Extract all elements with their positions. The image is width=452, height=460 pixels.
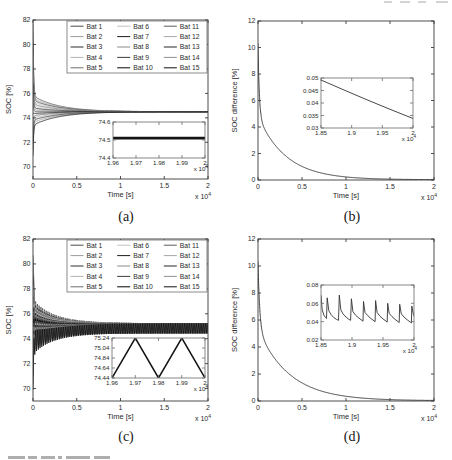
inset-plot: 1.961.971.981.99274.4474.6474.8475.0475.… <box>94 334 208 392</box>
x-tick-label: 1.5 <box>159 404 169 411</box>
y-tick-label: 80 <box>23 41 31 48</box>
y-tick-label: 74.4 <box>98 154 111 161</box>
legend-label: Bat 3 <box>87 43 103 50</box>
legend-label: Bat 7 <box>133 33 149 40</box>
y-axis-label: SOC [%] <box>4 85 13 114</box>
y-tick-label: 6 <box>252 316 256 323</box>
y-tick-label: 70 <box>23 385 31 392</box>
legend-label: Bat 12 <box>180 252 200 259</box>
x-axis-label: Time [s] <box>107 190 133 199</box>
y-tick-label: 2 <box>252 370 256 377</box>
y-axis-label: SOC difference [%] <box>230 288 239 352</box>
x-axis-label: Time [s] <box>333 191 359 200</box>
x-tick-label: 0 <box>256 183 260 190</box>
x-tick-label: 0 <box>256 404 260 411</box>
panel-d: 00.511.52024681012x 104SOC difference [%… <box>226 230 452 460</box>
axis-exponent-multiplier: x 104 <box>421 413 437 422</box>
y-tick-label: 75.04 <box>94 344 110 351</box>
legend: Bat 1Bat 2Bat 3Bat 4Bat 5Bat 6Bat 7Bat 8… <box>67 21 207 73</box>
y-tick-label: 0.08 <box>306 281 319 288</box>
inset-background <box>321 78 413 128</box>
text-smudge <box>28 456 37 459</box>
x-axis-label: Time [s] <box>107 412 133 421</box>
legend-label: Bat 8 <box>133 43 149 50</box>
inset-background <box>112 338 205 378</box>
legend-label: Bat 2 <box>87 33 103 40</box>
x-tick-label: 1.98 <box>152 379 165 386</box>
x-tick-label: 1.95 <box>377 341 390 348</box>
y-tick-label: 74.6 <box>98 118 111 125</box>
legend-label: Bat 2 <box>87 252 103 259</box>
panel-c: 00.511.5270727476788082x 104SOC [%]Time … <box>0 230 226 460</box>
y-tick-label: 0.045 <box>303 87 319 94</box>
y-tick-label: 74.44 <box>94 374 110 381</box>
y-axis-label: SOC difference [%] <box>230 68 239 132</box>
text-smudge <box>41 456 55 459</box>
legend-label: Bat 4 <box>87 273 103 280</box>
x-tick-label: 1 <box>344 404 348 411</box>
chart-d-soc-difference: 00.511.52024681012x 104SOC difference [%… <box>226 230 452 460</box>
axis-exponent-multiplier: x 104 <box>402 134 417 142</box>
series-line-bat-11 <box>33 112 208 123</box>
y-tick-label: 74.84 <box>94 354 110 361</box>
axis-exponent-multiplier: x 104 <box>403 346 418 354</box>
y-tick-label: 0.04 <box>306 318 319 325</box>
y-tick-label: 0 <box>252 176 256 183</box>
y-tick-label: 4 <box>252 343 256 350</box>
axis-exponent-multiplier: x 104 <box>421 192 437 201</box>
y-tick-label: 76 <box>23 310 31 317</box>
x-tick-label: 2 <box>206 182 210 189</box>
y-tick-label: 8 <box>252 70 256 77</box>
y-tick-label: 0.05 <box>306 74 319 81</box>
y-tick-label: 70 <box>23 163 31 170</box>
cropped-caption-fragment <box>8 456 128 459</box>
y-tick-label: 72 <box>23 360 31 367</box>
text-smudge <box>8 456 25 459</box>
y-tick-label: 74.5 <box>98 136 111 143</box>
legend-label: Bat 11 <box>180 242 199 249</box>
x-tick-label: 1.5 <box>159 182 169 189</box>
legend: Bat 1Bat 2Bat 3Bat 4Bat 5Bat 6Bat 7Bat 8… <box>67 240 207 292</box>
x-tick-label: 0.5 <box>297 183 307 190</box>
x-tick-label: 0 <box>31 182 35 189</box>
x-tick-label: 1 <box>119 404 123 411</box>
legend-label: Bat 13 <box>180 262 200 269</box>
x-tick-label: 0.5 <box>297 404 307 411</box>
x-tick-label: 1.5 <box>385 404 395 411</box>
x-tick-label: 1 <box>119 182 123 189</box>
y-tick-label: 0.02 <box>306 336 319 343</box>
x-tick-label: 1.5 <box>385 183 395 190</box>
y-tick-label: 0.035 <box>303 112 319 119</box>
x-tick-label: 1.99 <box>176 379 189 386</box>
axis-exponent-multiplier: x 104 <box>195 191 211 200</box>
legend-label: Bat 14 <box>180 273 200 280</box>
y-tick-label: 75.24 <box>94 334 110 341</box>
y-tick-label: 0.04 <box>306 99 319 106</box>
text-smudge <box>94 456 110 459</box>
y-tick-label: 0.06 <box>306 300 319 307</box>
text-smudge <box>66 456 90 459</box>
inset-plot: 1.851.91.9520.030.0350.040.0450.05x 104 <box>303 74 416 142</box>
sublabel-a: (a) <box>36 209 216 225</box>
y-tick-label: 10 <box>248 44 256 51</box>
axis-exponent-multiplier: x 104 <box>194 384 209 392</box>
legend-label: Bat 3 <box>87 262 103 269</box>
x-tick-label: 0.5 <box>72 404 82 411</box>
x-tick-label: 2 <box>432 183 436 190</box>
x-axis-label: Time [s] <box>333 412 359 421</box>
y-tick-label: 74.64 <box>94 364 110 371</box>
y-tick-label: 6 <box>252 97 256 104</box>
y-tick-label: 72 <box>23 139 31 146</box>
text-smudge <box>58 456 62 459</box>
y-tick-label: 0 <box>252 397 256 404</box>
legend-label: Bat 10 <box>133 64 153 71</box>
legend-label: Bat 1 <box>87 242 103 249</box>
y-tick-label: 78 <box>23 65 31 72</box>
sublabel-b: (b) <box>262 209 442 225</box>
sublabel-c: (c) <box>36 429 216 445</box>
x-tick-label: 0.5 <box>72 182 82 189</box>
y-tick-label: 82 <box>23 16 31 23</box>
legend-label: Bat 7 <box>133 252 149 259</box>
inset-plot: 1.851.91.9520.020.040.060.08x 104 <box>306 281 417 354</box>
y-tick-label: 74 <box>23 335 31 342</box>
